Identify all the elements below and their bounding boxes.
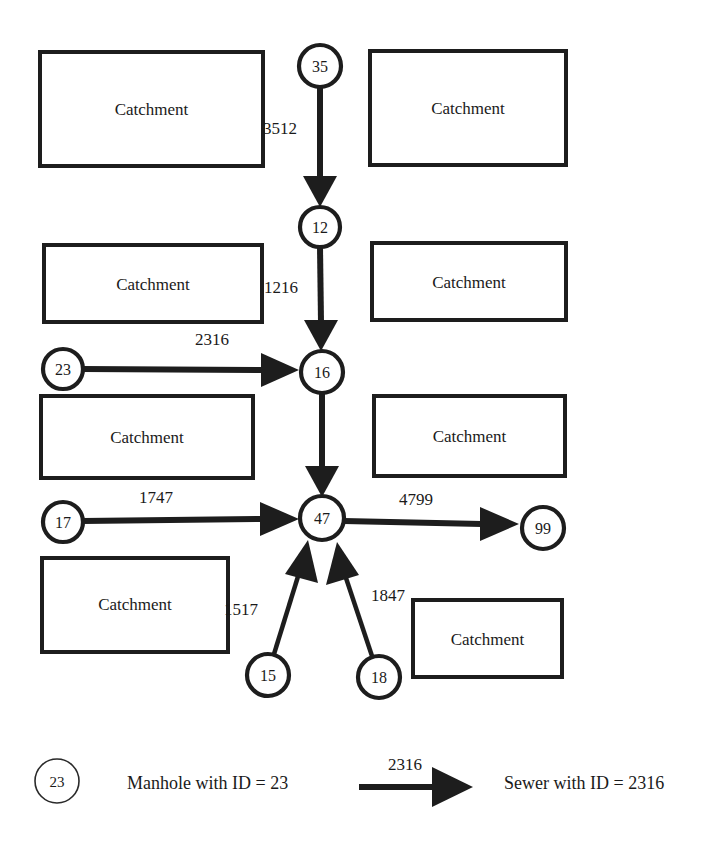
arrow-head-icon: [305, 466, 339, 497]
sewer-label-1747: 1747: [139, 488, 174, 507]
catchment-bottom-right: Catchment: [413, 600, 562, 677]
arrow-head-icon: [303, 176, 337, 207]
sewer-label-1216: 1216: [264, 278, 298, 297]
catchment-label: Catchment: [431, 99, 505, 118]
catchment-row3-left: Catchment: [41, 396, 253, 478]
legend: 23 Manhole with ID = 23 2316 Sewer with …: [35, 755, 664, 807]
sewer-line: [344, 572, 372, 656]
manhole-35[interactable]: 35: [299, 45, 341, 87]
sewer-1517: [274, 540, 318, 654]
manhole-18[interactable]: 18: [358, 656, 400, 698]
catchment-label: Catchment: [115, 100, 189, 119]
sewer-1216-to-47: [305, 393, 339, 497]
manhole-id-label: 12: [312, 219, 328, 236]
manhole-id-label: 99: [535, 520, 551, 537]
sewer-line: [83, 369, 263, 370]
legend-manhole-id-label: 23: [50, 774, 65, 790]
catchment-top-right: Catchment: [370, 51, 566, 165]
sewer-line: [83, 519, 262, 521]
manhole-23[interactable]: 23: [43, 349, 83, 389]
manhole-47[interactable]: 47: [300, 496, 344, 540]
sewer-label-4799: 4799: [399, 490, 433, 509]
manhole-id-label: 35: [312, 58, 328, 75]
manhole-17[interactable]: 17: [43, 502, 83, 542]
diagram-canvas: Catchment Catchment Catchment Catchment …: [0, 0, 720, 849]
manhole-12[interactable]: 12: [300, 207, 340, 247]
legend-manhole-item: 23 Manhole with ID = 23: [35, 759, 288, 803]
sewer-1847: [326, 542, 372, 656]
catchment-label: Catchment: [116, 275, 190, 294]
sewer-label-1847: 1847: [371, 586, 406, 605]
manhole-99[interactable]: 99: [522, 507, 564, 549]
legend-sewer-id-label: 2316: [388, 755, 422, 774]
catchment-mid-left: Catchment: [44, 245, 262, 322]
manhole-id-label: 18: [371, 669, 387, 686]
arrow-head-icon: [432, 767, 473, 807]
sewer-label-1517: 1517: [224, 600, 259, 619]
arrow-head-icon: [480, 507, 519, 541]
legend-sewer-description: Sewer with ID = 2316: [504, 773, 664, 793]
arrow-head-icon: [261, 353, 299, 387]
catchment-label: Catchment: [433, 427, 507, 446]
catchment-top-left: Catchment: [40, 52, 263, 166]
catchment-bottom-left: Catchment: [42, 558, 228, 652]
catchment-label: Catchment: [432, 273, 506, 292]
manhole-id-label: 17: [55, 514, 71, 531]
sewer-4799: [344, 507, 519, 541]
manhole-id-label: 16: [314, 364, 330, 381]
arrow-head-icon: [304, 320, 338, 351]
arrow-head-icon: [260, 502, 299, 536]
manhole-id-label: 47: [314, 510, 330, 527]
manhole-id-label: 23: [55, 361, 71, 378]
arrow-head-icon: [326, 542, 359, 585]
legend-sewer-item: 2316 Sewer with ID = 2316: [359, 755, 664, 807]
manhole-15[interactable]: 15: [247, 654, 289, 696]
sewer-1747: [83, 502, 299, 536]
sewer-line: [344, 521, 482, 524]
sewer-2316: [83, 353, 299, 387]
sewer-label-2316: 2316: [195, 330, 229, 349]
manhole-id-label: 15: [260, 667, 276, 684]
sewer-line: [274, 570, 300, 654]
sewer-line: [320, 247, 321, 322]
arrow-head-icon: [285, 540, 318, 583]
sewer-1216: [304, 247, 338, 351]
catchment-label: Catchment: [110, 428, 184, 447]
legend-manhole-description: Manhole with ID = 23: [127, 773, 288, 793]
sewer-network-diagram: Catchment Catchment Catchment Catchment …: [0, 0, 720, 849]
catchment-label: Catchment: [451, 630, 525, 649]
manhole-16[interactable]: 16: [301, 351, 343, 393]
sewer-label-3512: 3512: [263, 119, 297, 138]
catchment-mid-right: Catchment: [372, 243, 566, 320]
catchment-row3-right: Catchment: [374, 396, 565, 476]
sewer-3512: [303, 87, 337, 207]
catchment-label: Catchment: [98, 595, 172, 614]
